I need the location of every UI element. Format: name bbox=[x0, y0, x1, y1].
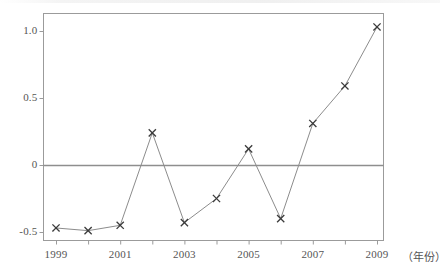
series-polyline bbox=[56, 27, 377, 231]
data-point-marker bbox=[213, 195, 220, 202]
x-tick-label: 2005 bbox=[225, 248, 273, 260]
x-tick-label: 2003 bbox=[160, 248, 208, 260]
data-point-marker bbox=[373, 23, 380, 30]
x-tick-label: 2007 bbox=[289, 248, 337, 260]
y-tick-label: 1.0 bbox=[4, 24, 38, 36]
data-point-marker bbox=[245, 145, 252, 152]
plot-area-border bbox=[44, 14, 384, 241]
data-point-marker bbox=[309, 120, 316, 127]
y-tick-label: 0 bbox=[4, 158, 38, 170]
x-axis-caption: （年份） bbox=[402, 248, 440, 264]
data-point-marker bbox=[181, 219, 188, 226]
x-tick-label: 2009 bbox=[353, 248, 401, 260]
y-axis-ticks bbox=[40, 32, 44, 233]
x-axis-ticks bbox=[57, 241, 378, 245]
data-point-markers bbox=[52, 23, 380, 234]
x-tick-label: 2001 bbox=[96, 248, 144, 260]
line-chart: 1.00.50-0.5 199920012003200520072009 （年份… bbox=[0, 0, 440, 279]
data-point-marker bbox=[149, 129, 156, 136]
plot-frame bbox=[44, 14, 384, 241]
y-tick-label: -0.5 bbox=[4, 225, 38, 237]
data-point-marker bbox=[277, 215, 284, 222]
x-tick-label: 1999 bbox=[32, 248, 80, 260]
data-point-marker bbox=[341, 82, 348, 89]
chart-canvas bbox=[0, 0, 440, 279]
y-tick-label: 0.5 bbox=[4, 91, 38, 103]
data-series-line bbox=[56, 27, 377, 231]
